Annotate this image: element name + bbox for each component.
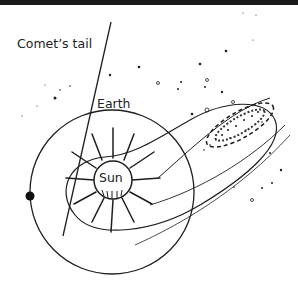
comet-tail-line bbox=[63, 22, 111, 236]
comet-tail-label: Comet’s tail bbox=[17, 36, 92, 51]
sun-label: Sun bbox=[99, 170, 123, 185]
earth-label: Earth bbox=[97, 96, 131, 111]
earth-icon bbox=[26, 192, 35, 201]
